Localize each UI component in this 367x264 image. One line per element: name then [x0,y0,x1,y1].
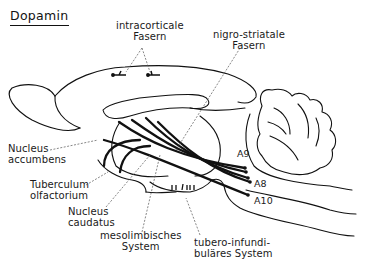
label-nigrostriatal-fibers: nigro-striatale Fasern [213,29,285,51]
dopamine-pathway-diagram: Dopamin [0,0,367,264]
corpus-callosum-outline [103,95,209,119]
label-line-2: Fasern [213,40,285,51]
label-line-1: Tuberculum [30,179,89,190]
leader-intracortical-1 [126,48,142,72]
label-line-1: nigro-striatale [213,29,285,40]
label-line-2: caudatus [68,217,115,228]
label-line-1: tubero-infundi- [194,237,273,248]
label-a9: A9 [237,148,250,159]
label-line-2: olfactorium [30,190,89,201]
label-tuberculum-olfactorium: Tuberculum olfactorium [30,179,89,201]
label-nucleus-accumbens: Nucleus accumbens [8,143,66,165]
nigrostriatal-fibers [104,118,250,195]
leader-tuberculum [86,172,108,185]
label-intracortical-fibers: intracorticale Fasern [116,20,184,42]
leader-intracortical-2 [142,48,150,72]
label-mesolimbic-system: mesolimbisches System [100,230,181,252]
label-line-2: accumbens [8,154,66,165]
leader-caudatus [106,155,150,207]
intracortical-fiber-symbols [112,71,160,76]
leader-mesolimbic [142,155,160,232]
cerebellum-outline [257,89,335,174]
label-nucleus-caudatus: Nucleus caudatus [68,206,115,228]
hypothalamus-outline [150,180,212,192]
label-line-1: Nucleus [68,206,115,217]
frontal-inner-curve [55,96,80,128]
pons-outline [212,179,354,236]
label-line-2: buläres System [194,248,273,259]
cortex-outline [55,66,256,103]
label-line-1: intracorticale [116,20,184,31]
tuberoinfundibular-fibers [172,184,194,190]
mesolimbic-arc-2 [120,146,150,172]
label-line-1: mesolimbisches [100,230,181,241]
label-a8: A8 [254,178,267,189]
olfactory-bulb-outline [9,85,80,131]
basal-outline [146,192,176,193]
leader-tuberoinfundibular [186,198,200,235]
label-line-1: Nucleus [8,143,66,154]
cerebellum-folia [268,104,319,160]
label-tuberoinfundibular-system: tubero-infundi- buläres System [194,237,273,259]
label-line-2: Fasern [116,31,184,42]
label-a10: A10 [254,195,273,206]
label-line-2: System [100,241,181,252]
leader-nigrostriatal [176,45,242,150]
